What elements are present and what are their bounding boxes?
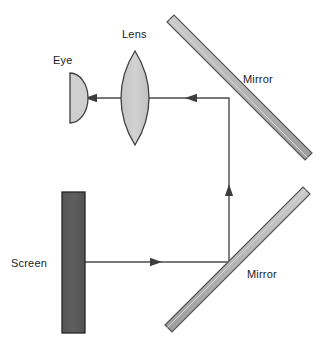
arrowhead-up-icon	[225, 184, 233, 196]
mirror-top-highlight	[170, 20, 308, 158]
lens	[121, 51, 149, 145]
optics-diagram-canvas: Eye Lens Mirror Mirror Screen	[0, 0, 321, 354]
screen	[62, 192, 85, 333]
arrowhead-left-icon	[185, 94, 197, 102]
label-mirror-top: Mirror	[243, 73, 273, 85]
mirror-bottom	[165, 187, 310, 332]
eye-half-disc-shape	[70, 73, 88, 123]
optics-diagram: Eye Lens Mirror Mirror Screen	[0, 0, 321, 354]
ray-group	[85, 94, 233, 266]
mirror-bottom-highlight	[168, 190, 306, 328]
lens-biconvex-shape	[121, 51, 149, 145]
label-lens: Lens	[122, 28, 147, 40]
mirror-bottom-bar-shape	[165, 187, 310, 332]
label-mirror-bottom: Mirror	[247, 268, 277, 280]
screen-rect-shape	[62, 192, 85, 333]
mirror-top	[167, 15, 312, 160]
ray-screen-to-bottom-mirror	[85, 258, 229, 266]
label-screen: Screen	[11, 257, 47, 269]
mirror-top-bar-shape	[167, 15, 312, 160]
label-eye: Eye	[53, 54, 73, 66]
ray-bottom-mirror-to-top-mirror	[225, 98, 233, 263]
arrowhead-right-icon	[150, 258, 162, 266]
eye	[70, 73, 88, 123]
